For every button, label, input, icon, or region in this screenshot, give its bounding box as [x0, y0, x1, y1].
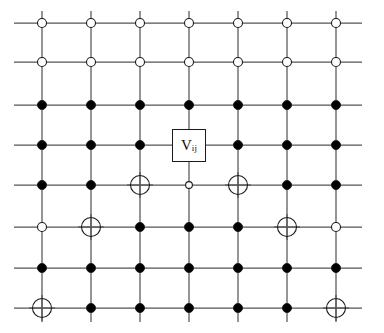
site-open-r1c6 [283, 19, 292, 28]
site-filled-r3c4 [185, 101, 194, 110]
site-filled-r5c2 [87, 181, 96, 190]
site-open-r2c3 [136, 58, 145, 67]
site-filled-r4c6 [283, 141, 292, 150]
site-filled-r3c7 [332, 101, 341, 110]
site-filled-r7c1 [38, 264, 47, 273]
site-filled-r6c5 [234, 223, 243, 232]
lattice-graph-canvas [0, 0, 384, 333]
site-filled-r7c2 [87, 264, 96, 273]
site-filled-r3c5 [234, 101, 243, 110]
site-crossed-r5c5 [225, 172, 251, 198]
node-label-subscript: ij [192, 144, 197, 153]
site-open-r6c1 [38, 223, 47, 232]
site-filled-r4c1 [38, 141, 47, 150]
site-filled-r6c3 [136, 223, 145, 232]
site-open-r2c6 [283, 58, 292, 67]
site-filled-r3c1 [38, 101, 47, 110]
site-filled-r4c3 [136, 141, 145, 150]
site-filled-r8c3 [136, 304, 145, 313]
site-filled-r7c3 [136, 264, 145, 273]
site-filled-r8c6 [283, 304, 292, 313]
site-open-r1c4 [185, 19, 194, 28]
site-crossed-r6c6 [274, 214, 300, 240]
site-open-r1c7 [332, 19, 341, 28]
site-open-r2c2 [87, 58, 96, 67]
site-filled-r4c5 [234, 141, 243, 150]
lattice-diagram-figure: Vij [0, 0, 384, 333]
site-open-r2c4 [185, 58, 194, 67]
site-open-r1c1 [38, 19, 47, 28]
site-open-r2c5 [234, 58, 243, 67]
site-filled-r5c1 [38, 181, 47, 190]
site-filled-r7c7 [332, 264, 341, 273]
site-filled-r7c6 [283, 264, 292, 273]
site-filled-r3c6 [283, 101, 292, 110]
site-filled-r7c4 [185, 264, 194, 273]
site-open-r1c5 [234, 19, 243, 28]
site-open-r2c7 [332, 58, 341, 67]
site-filled-r8c4 [185, 304, 194, 313]
site-crossed-r8c1 [29, 295, 55, 321]
node-label-box-vij: Vij [172, 129, 206, 162]
site-crossed-r6c2 [78, 214, 104, 240]
site-filled-r8c2 [87, 304, 96, 313]
site-crossed-r5c3 [127, 172, 153, 198]
site-filled-r5c6 [283, 181, 292, 190]
site-open-r6c7 [332, 223, 341, 232]
site-filled-r4c2 [87, 141, 96, 150]
site-open-r1c3 [136, 19, 145, 28]
site-filled-r6c4 [185, 223, 194, 232]
site-open-r1c2 [87, 19, 96, 28]
site-open-r2c1 [38, 58, 47, 67]
site-filled-r5c7 [332, 181, 341, 190]
node-label-variable: V [181, 138, 192, 153]
site-filled-r3c3 [136, 101, 145, 110]
site-filled-r7c5 [234, 264, 243, 273]
site-crossed-r8c7 [323, 295, 349, 321]
site-filled-r4c7 [332, 141, 341, 150]
site-filled-r3c2 [87, 101, 96, 110]
site-filled-r8c5 [234, 304, 243, 313]
site-small-open-r5c4 [186, 182, 193, 189]
